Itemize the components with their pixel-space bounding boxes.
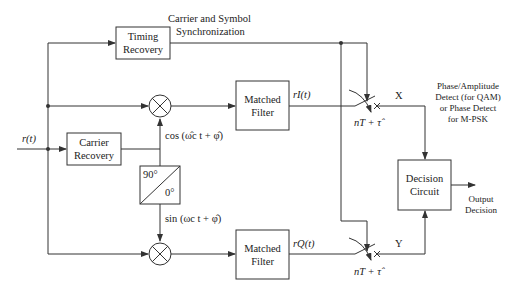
decision-circuit-block: Decision Circuit	[398, 160, 451, 210]
output-decision-label: Output Decision	[458, 194, 504, 216]
carrier-recovery-block: Carrier Recovery	[67, 133, 121, 165]
input-signal-label: r(t)	[22, 133, 36, 145]
matched-filter-q-line1: Matched	[244, 242, 281, 255]
phase-shift-0-label: 0°	[165, 187, 174, 199]
matched-filter-i-line2: Filter	[251, 106, 274, 119]
output-line2: Decision	[458, 205, 504, 216]
detect-line1: Phase/Amplitude	[427, 81, 509, 92]
detect-annotation: Phase/Amplitude Detect (for QAM) or Phas…	[427, 81, 509, 125]
decision-circuit-line2: Circuit	[410, 185, 439, 198]
sync-label-line1: Carrier and Symbol	[168, 13, 251, 25]
sync-label-line2: Synchronization	[176, 26, 245, 38]
output-line1: Output	[458, 194, 504, 205]
carrier-recovery-line2: Recovery	[74, 149, 114, 162]
timing-recovery-line2: Recovery	[123, 43, 163, 56]
y-output-label: Y	[395, 238, 403, 250]
sample-time-q-label: nT + τ̂	[354, 266, 381, 278]
carrier-recovery-line1: Carrier	[79, 136, 109, 149]
sin-reference-label: sin (ωc t + φ̂)	[165, 213, 221, 225]
matched-filter-q-line2: Filter	[251, 255, 274, 268]
quadrature-signal-label: rQ(t)	[293, 238, 315, 250]
sample-time-i-label: nT + τ̂	[354, 117, 381, 129]
timing-recovery-line1: Timing	[128, 30, 159, 43]
matched-filter-i-block: Matched Filter	[236, 81, 289, 130]
detect-line3: or Phase Detect	[427, 103, 509, 114]
phase-shift-90-label: 90°	[143, 169, 158, 181]
in-phase-signal-label: rI(t)	[293, 89, 311, 101]
decision-circuit-line1: Decision	[406, 172, 443, 185]
matched-filter-q-block: Matched Filter	[236, 230, 289, 279]
detect-line2: Detect (for QAM)	[427, 92, 509, 103]
detect-line4: for M-PSK	[427, 114, 509, 125]
matched-filter-i-line1: Matched	[244, 93, 281, 106]
timing-recovery-block: Timing Recovery	[116, 27, 170, 59]
x-output-label: X	[395, 90, 403, 102]
cos-reference-label: cos (ω̂c t + φ̂)	[165, 130, 223, 142]
